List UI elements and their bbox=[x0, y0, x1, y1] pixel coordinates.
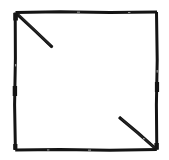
figure-container: Square with two corner diagonal segments… bbox=[0, 0, 169, 160]
square-bottom-edge bbox=[15, 150, 157, 151]
line-art-canvas bbox=[0, 0, 169, 160]
square-right-edge bbox=[156, 12, 157, 150]
square-top-edge bbox=[16, 12, 158, 13]
square-left-edge bbox=[15, 12, 16, 150]
